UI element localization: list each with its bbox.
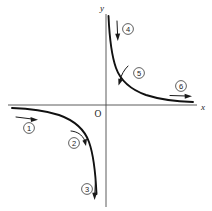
- marker-1-group: 1: [16, 117, 38, 133]
- marker-1-arrow-shaft: [16, 117, 32, 119]
- marker-5-label: 5: [137, 69, 141, 78]
- marker-6-group: 6: [170, 81, 192, 99]
- marker-3-label: 3: [85, 185, 89, 194]
- curve-branch-third-quadrant: [12, 108, 97, 194]
- marker-3-arrow-head: [92, 193, 97, 200]
- marker-5-group: 5: [118, 66, 144, 86]
- marker-1-label: 1: [27, 124, 31, 133]
- marker-3-group: 3: [82, 179, 98, 200]
- marker-5-arrow-head: [118, 78, 123, 85]
- marker-6-label: 6: [179, 82, 183, 91]
- marker-4-label: 4: [126, 25, 130, 34]
- y-axis-label: y: [99, 3, 104, 13]
- hyperbola-figure: y x O 1 2 3: [0, 0, 212, 211]
- marker-3-arrow-shaft: [95, 179, 96, 194]
- marker-4-group: 4: [115, 21, 133, 41]
- marker-4-arrow-head: [115, 34, 120, 41]
- marker-6-arrow-head: [185, 94, 192, 99]
- marker-2-label: 2: [72, 139, 76, 148]
- marker-4-arrow-shaft: [117, 21, 118, 35]
- origin-label: O: [95, 109, 102, 119]
- marker-2-arrow-head: [82, 139, 87, 146]
- marker-6-arrow-shaft: [170, 96, 186, 97]
- figure-canvas: y x O 1 2 3: [0, 0, 212, 211]
- x-axis-label: x: [200, 102, 205, 112]
- marker-1-arrow-head: [31, 117, 39, 122]
